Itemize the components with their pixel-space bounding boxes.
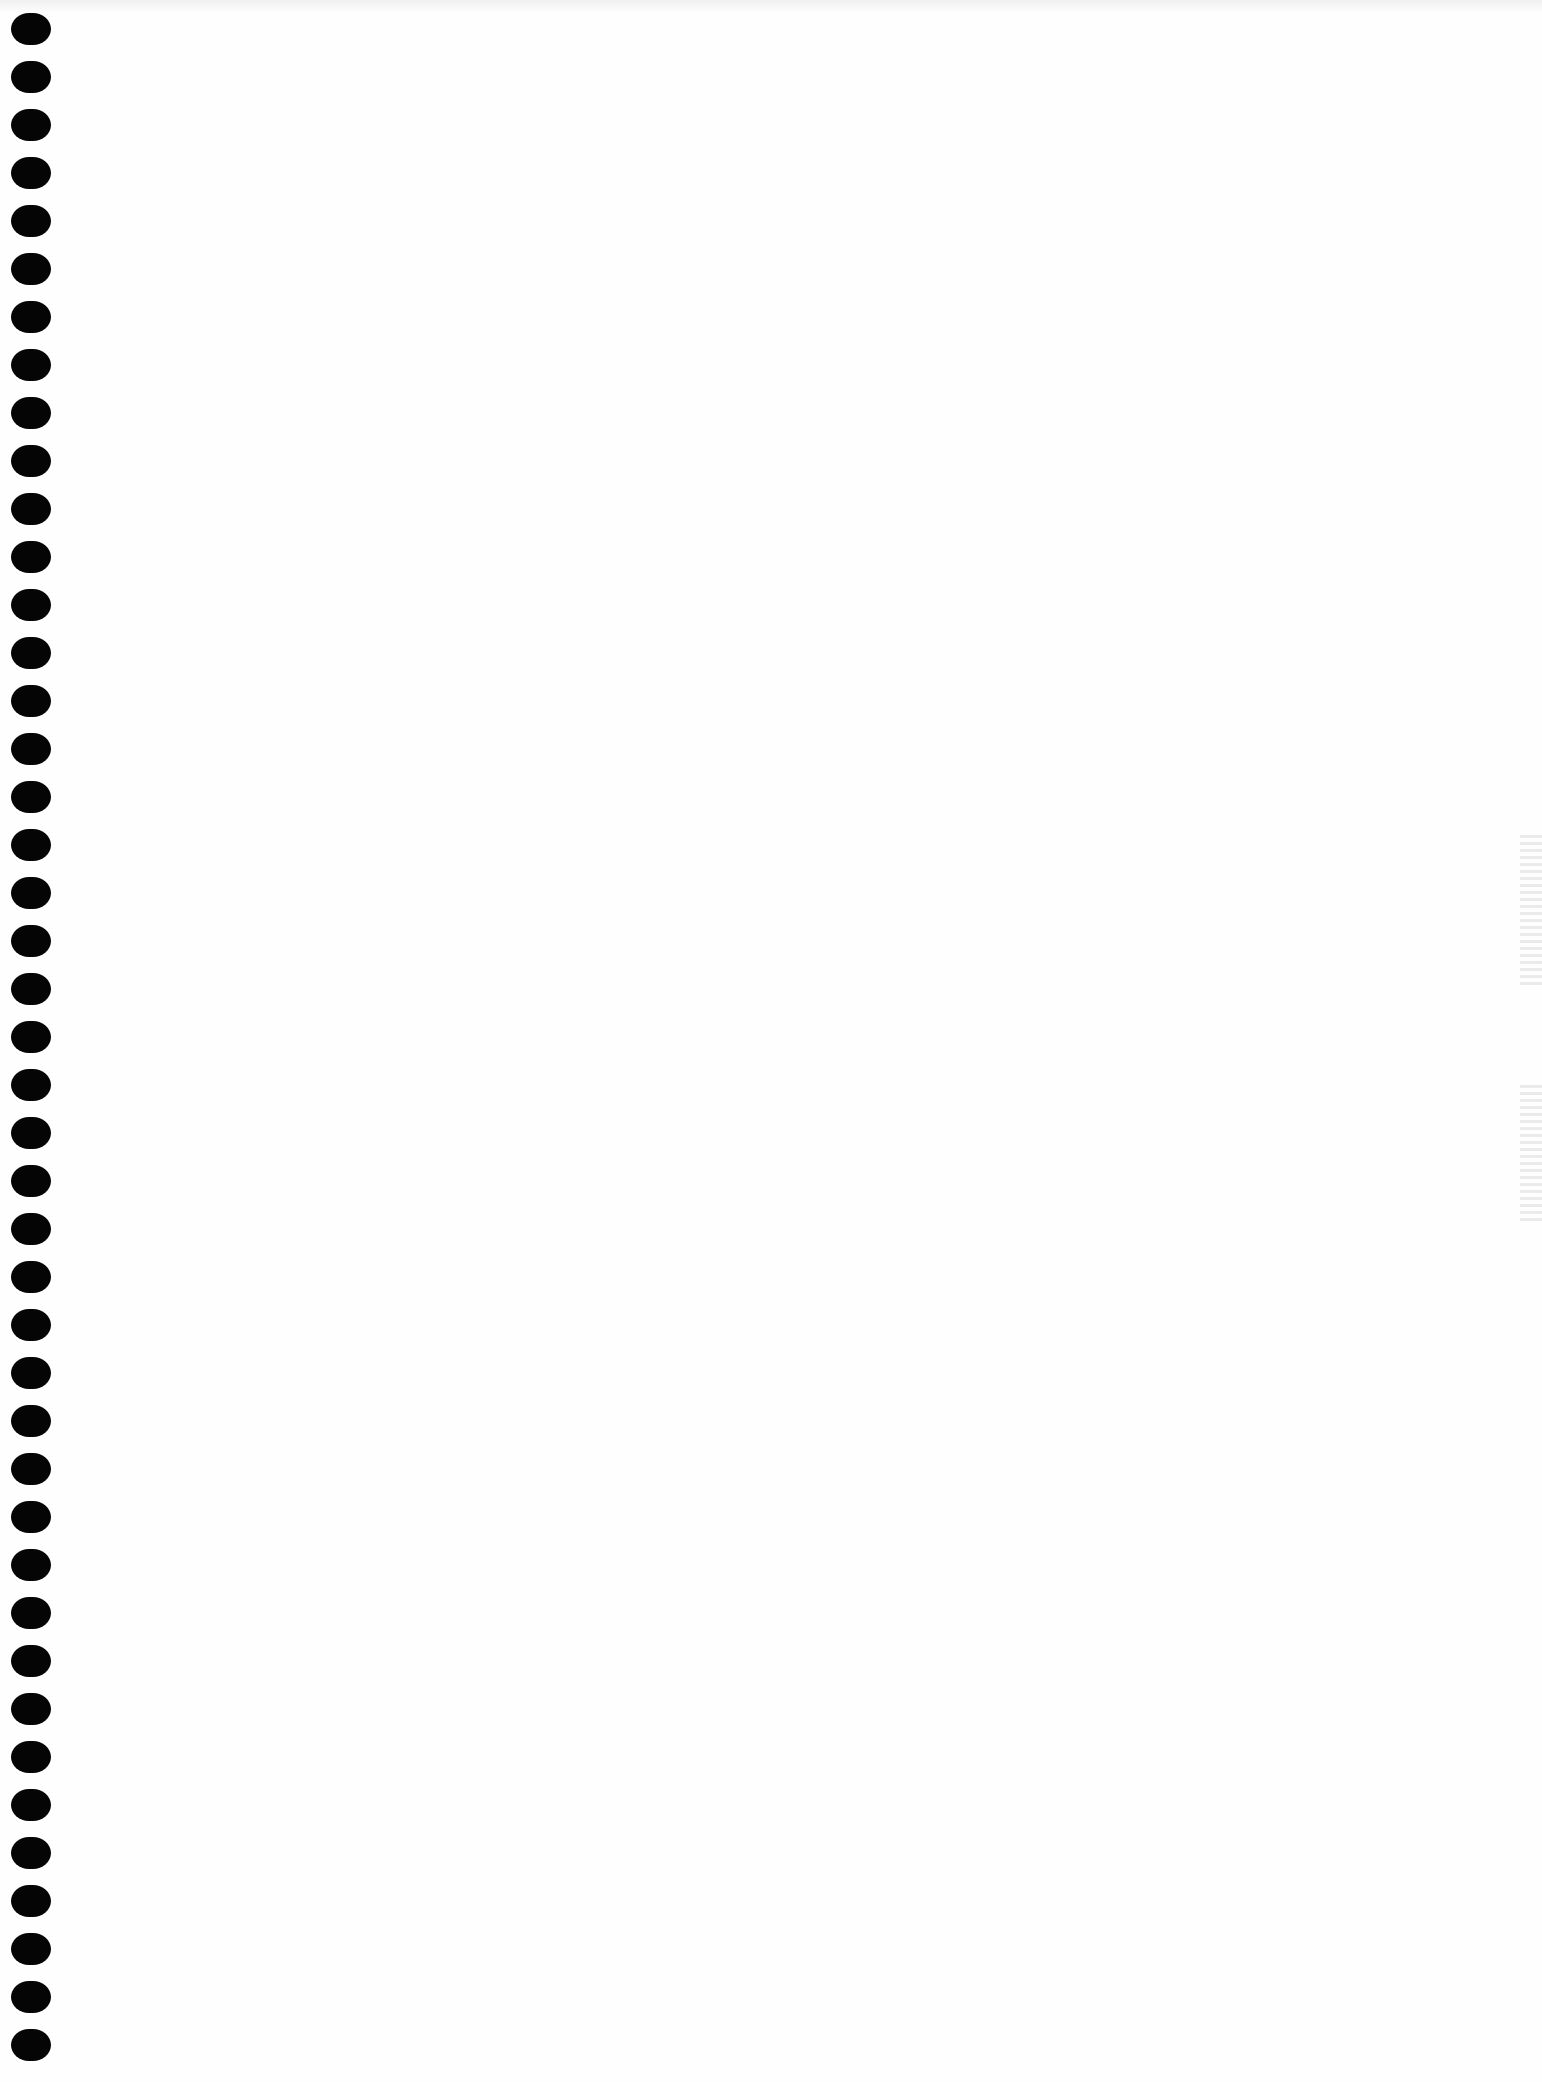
binding-hole <box>11 637 51 669</box>
binding-hole <box>11 205 51 237</box>
binding-hole <box>11 1933 51 1965</box>
binding-hole <box>11 1357 51 1389</box>
binding-hole <box>11 1405 51 1437</box>
binding-hole <box>11 1501 51 1533</box>
spiral-binding-holes <box>0 0 70 2082</box>
binding-hole <box>11 1069 51 1101</box>
notebook-page <box>0 0 1542 2082</box>
binding-hole <box>11 157 51 189</box>
binding-hole <box>11 541 51 573</box>
binding-hole <box>11 13 51 45</box>
binding-hole <box>11 1021 51 1053</box>
binding-hole <box>11 349 51 381</box>
binding-hole <box>11 1165 51 1197</box>
perforated-top-edge <box>0 0 1542 14</box>
binding-hole <box>11 925 51 957</box>
binding-hole <box>11 301 51 333</box>
binding-hole <box>11 1885 51 1917</box>
binding-hole <box>11 733 51 765</box>
binding-hole <box>11 1693 51 1725</box>
binding-hole <box>11 1837 51 1869</box>
binding-hole <box>11 493 51 525</box>
binding-hole <box>11 589 51 621</box>
binding-hole <box>11 1741 51 1773</box>
bleed-through-mark <box>1520 835 1542 985</box>
binding-hole <box>11 397 51 429</box>
binding-hole <box>11 1213 51 1245</box>
binding-hole <box>11 445 51 477</box>
binding-hole <box>11 1981 51 2013</box>
binding-hole <box>11 1261 51 1293</box>
binding-hole <box>11 1645 51 1677</box>
binding-hole <box>11 1597 51 1629</box>
binding-hole <box>11 253 51 285</box>
bleed-through-mark <box>1520 1085 1542 1225</box>
binding-hole <box>11 61 51 93</box>
binding-hole <box>11 1117 51 1149</box>
binding-hole <box>11 2029 51 2061</box>
binding-hole <box>11 973 51 1005</box>
binding-hole <box>11 877 51 909</box>
binding-hole <box>11 1549 51 1581</box>
binding-hole <box>11 1309 51 1341</box>
binding-hole <box>11 781 51 813</box>
binding-hole <box>11 1789 51 1821</box>
binding-hole <box>11 829 51 861</box>
binding-hole <box>11 109 51 141</box>
binding-hole <box>11 685 51 717</box>
binding-hole <box>11 1453 51 1485</box>
